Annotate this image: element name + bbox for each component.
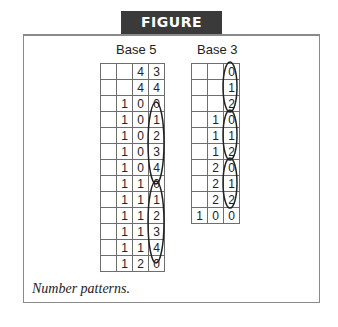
table-row: 113 [101,224,165,240]
digit-cell: 1 [224,176,240,192]
digit-cell: 1 [117,96,133,112]
digit-cell: 2 [208,176,224,192]
digit-cell: 1 [224,80,240,96]
table-row: 12 [192,144,240,160]
digit-cell: 1 [133,176,149,192]
table-row: 2 [192,96,240,112]
digit-cell: 0 [133,144,149,160]
digit-cell: 0 [133,160,149,176]
table-row: 44 [101,80,165,96]
digit-cell: 1 [133,208,149,224]
table-row: 111 [101,192,165,208]
figure-banner: FIGURE 9.10 [121,11,222,34]
table-row: 100 [192,208,240,224]
digit-cell [208,64,224,80]
digit-cell [101,128,117,144]
figure-frame [23,34,320,303]
digit-cell [192,192,208,208]
table-row: 11 [192,128,240,144]
digit-cell: 2 [133,256,149,272]
table-row: 22 [192,192,240,208]
digit-cell: 3 [149,144,165,160]
digit-cell: 0 [224,160,240,176]
digit-cell [101,64,117,80]
digit-cell: 2 [224,96,240,112]
digit-cell [192,144,208,160]
digit-cell [208,96,224,112]
digit-cell: 4 [149,80,165,96]
table-row: 0 [192,64,240,80]
digit-cell: 1 [117,176,133,192]
base5-title: Base 5 [116,42,156,57]
digit-cell [117,64,133,80]
digit-cell [192,64,208,80]
digit-cell: 4 [133,80,149,96]
base3-table: 012101112202122100 [191,63,240,224]
digit-cell: 0 [133,96,149,112]
digit-cell: 1 [117,256,133,272]
digit-cell: 1 [117,224,133,240]
digit-cell: 3 [149,224,165,240]
digit-cell: 1 [117,192,133,208]
digit-cell: 0 [149,256,165,272]
digit-cell: 1 [133,192,149,208]
digit-cell: 1 [117,128,133,144]
table-row: 20 [192,160,240,176]
digit-cell [192,96,208,112]
digit-cell: 0 [208,208,224,224]
digit-cell: 0 [149,96,165,112]
table-row: 120 [101,256,165,272]
digit-cell: 1 [117,144,133,160]
digit-cell [192,176,208,192]
digit-cell: 1 [224,128,240,144]
digit-cell: 2 [149,128,165,144]
digit-cell: 0 [149,176,165,192]
digit-cell [192,128,208,144]
digit-cell: 0 [224,64,240,80]
digit-cell: 1 [117,208,133,224]
digit-cell: 0 [224,112,240,128]
table-row: 110 [101,176,165,192]
digit-cell: 1 [192,208,208,224]
digit-cell: 2 [224,192,240,208]
table-row: 10 [192,112,240,128]
digit-cell: 1 [149,192,165,208]
digit-cell: 1 [117,240,133,256]
table-row: 112 [101,208,165,224]
table-row: 101 [101,112,165,128]
digit-cell: 1 [117,160,133,176]
digit-cell [208,80,224,96]
digit-cell [101,112,117,128]
table-row: 21 [192,176,240,192]
digit-cell [101,176,117,192]
digit-cell [101,240,117,256]
digit-cell: 3 [149,64,165,80]
digit-cell [101,256,117,272]
digit-cell [101,224,117,240]
digit-cell: 2 [224,144,240,160]
table-row: 43 [101,64,165,80]
figure-caption: Number patterns. [32,281,130,297]
digit-cell: 1 [133,240,149,256]
digit-cell: 0 [133,112,149,128]
base5-table: 4344100101102103104110111112113114120 [100,63,165,272]
digit-cell: 2 [149,208,165,224]
table-row: 100 [101,96,165,112]
digit-cell [192,112,208,128]
digit-cell: 2 [208,160,224,176]
digit-cell [101,80,117,96]
digit-cell: 4 [149,160,165,176]
digit-cell: 4 [133,64,149,80]
digit-cell [101,144,117,160]
digit-cell [101,208,117,224]
digit-cell [101,96,117,112]
digit-cell: 2 [208,192,224,208]
table-row: 104 [101,160,165,176]
digit-cell: 1 [208,112,224,128]
digit-cell: 1 [208,144,224,160]
digit-cell: 1 [208,128,224,144]
table-row: 114 [101,240,165,256]
digit-cell: 4 [149,240,165,256]
table-row: 103 [101,144,165,160]
digit-cell: 1 [117,112,133,128]
